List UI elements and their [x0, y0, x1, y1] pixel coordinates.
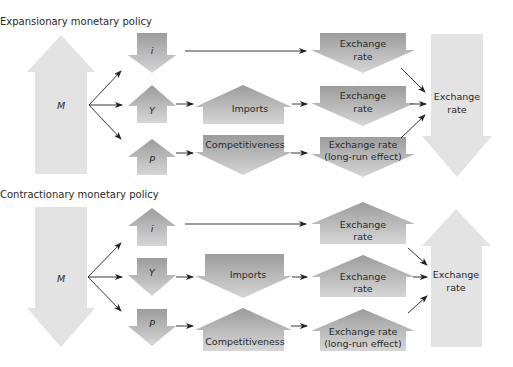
- result-label-line2: rate: [447, 104, 466, 115]
- connector-m-to-i: [88, 243, 121, 277]
- connector-to-result-1: [408, 248, 427, 265]
- money-label: M: [57, 100, 65, 111]
- exchange-rate-label-line1: Exchange: [340, 219, 387, 230]
- exchange-rate-label-line1: Exchange: [340, 38, 387, 49]
- exchange-rate-label-line1: Exchange: [340, 271, 387, 282]
- exchange-rate-longrun-label-line1: Exchange rate: [329, 326, 398, 337]
- exchange-rate-label-line2: rate: [353, 51, 372, 62]
- exchange-rate-longrun-label-line2: (long-run effect): [324, 151, 402, 162]
- output-up-arrow-icon: [128, 85, 176, 123]
- exchange-rate-label-line2: rate: [353, 283, 372, 294]
- competitiveness-label: Competitiveness: [205, 336, 285, 347]
- price-label: P: [149, 318, 155, 329]
- exchange-rate-label-line1: Exchange: [340, 90, 387, 101]
- interest-label: i: [151, 45, 154, 56]
- price-label: P: [149, 154, 155, 165]
- result-label-line1: Exchange: [434, 91, 481, 102]
- contractionary-panel: Contractionary monetary policy M i Y Imp…: [0, 189, 491, 351]
- exchange-rate-longrun-label-line1: Exchange rate: [329, 139, 398, 150]
- exchange-rate-label-line2: rate: [353, 231, 372, 242]
- expansionary-panel: Expansionary monetary policy M i Y Impor…: [0, 16, 492, 177]
- connector-m-to-i: [89, 71, 121, 105]
- connector-m-to-p: [88, 277, 121, 311]
- connector-to-result-3: [401, 115, 425, 138]
- interest-label: i: [151, 223, 154, 234]
- result-label-line1: Exchange: [433, 269, 480, 280]
- monetary-policy-diagram: Expansionary monetary policy M i Y Impor…: [0, 0, 513, 367]
- imports-label: Imports: [232, 103, 269, 114]
- contractionary-title: Contractionary monetary policy: [0, 189, 159, 200]
- competitiveness-label: Competitiveness: [205, 139, 285, 150]
- result-label-line2: rate: [446, 282, 465, 293]
- imports-label: Imports: [230, 269, 267, 280]
- expansionary-title: Expansionary monetary policy: [0, 16, 152, 27]
- money-label: M: [57, 273, 65, 284]
- exchange-rate-longrun-label-line2: (long-run effect): [324, 338, 402, 349]
- connector-to-result-3: [408, 296, 427, 313]
- connector-m-to-p: [89, 105, 121, 139]
- exchange-rate-label-line2: rate: [353, 103, 372, 114]
